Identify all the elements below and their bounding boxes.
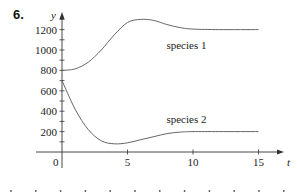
footer-dot xyxy=(258,190,260,192)
y-axis-arrow-icon xyxy=(60,12,65,19)
footer-dot xyxy=(134,190,136,192)
footer-dot xyxy=(60,190,62,192)
series-line-2 xyxy=(62,81,259,144)
footer-dot xyxy=(233,190,235,192)
series-label-2: species 2 xyxy=(166,113,206,125)
y-axis-label: y xyxy=(50,9,56,21)
x-tick-label: 10 xyxy=(188,156,200,168)
x-tick-label: 5 xyxy=(125,156,131,168)
y-tick-label: 600 xyxy=(41,85,58,97)
y-tick-label: 400 xyxy=(41,105,58,117)
y-tick-label: 1200 xyxy=(35,24,58,36)
series-line-1 xyxy=(62,19,259,70)
footer-dot xyxy=(209,190,211,192)
population-chart: ty05101520040060080010001200species 1spe… xyxy=(0,0,297,193)
x-axis-arrow-icon xyxy=(277,150,284,155)
footer-dot xyxy=(109,190,111,192)
series-label-1: species 1 xyxy=(166,39,206,51)
footer-dot xyxy=(184,190,186,192)
footer-dot xyxy=(159,190,161,192)
y-tick-label: 1000 xyxy=(35,44,58,56)
footer-dot xyxy=(10,190,12,192)
footer-dot xyxy=(85,190,87,192)
x-axis-label: t xyxy=(287,156,291,168)
y-tick-label: 800 xyxy=(41,64,58,76)
y-tick-label: 200 xyxy=(41,126,58,138)
footer-dot xyxy=(283,190,285,192)
origin-label: 0 xyxy=(53,156,59,168)
x-tick-label: 15 xyxy=(253,156,265,168)
footer-dot xyxy=(35,190,37,192)
